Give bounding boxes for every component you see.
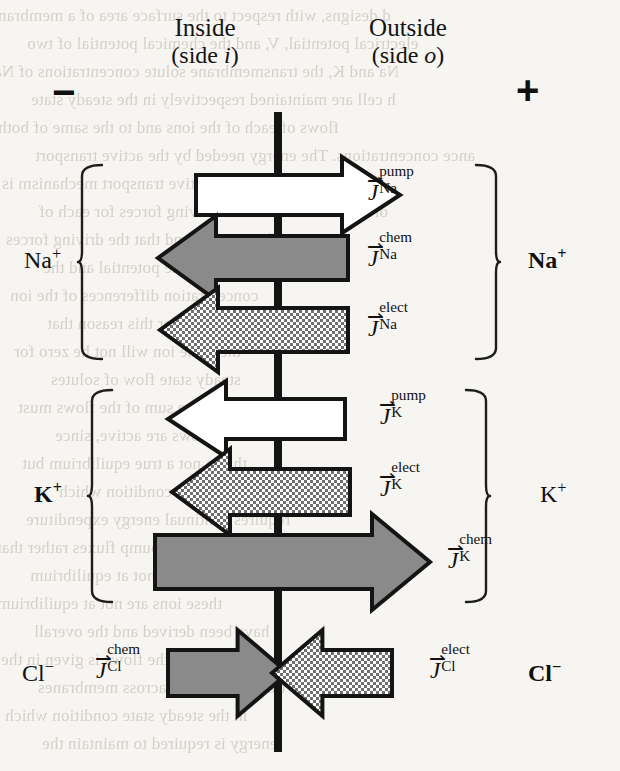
flux-subscript: Na [379,180,414,195]
ion-label-potassium-right: K+ [540,478,567,508]
figure-canvas: d designs, with respect to the surface a… [0,0,620,771]
outside-title: Outside [318,14,498,42]
flux-superscript: elect [441,641,470,656]
flux-symbol: ⇀J [448,549,459,572]
flux-symbol: ⇀J [380,477,391,500]
ion-label-sodium-left: Na+ [24,244,61,274]
brace-potassium-right [462,388,490,604]
flux-label-k-elect: ⇀JelectK [380,468,420,500]
flux-subscript: Cl [441,658,470,673]
bleed-line: flows of each of the ions and to the sam… [0,118,339,138]
flux-label-cl-elect: ⇀JelectCl [430,650,470,682]
flux-label-cl-chem: ⇀JchemCl [96,650,140,682]
brace-sodium-left [78,163,106,361]
flux-subscript: Na [379,316,408,331]
flux-symbol: ⇀J [96,659,107,682]
flux-label-k-pump: ⇀JpumpK [380,396,426,428]
outside-subtitle: (side o) [318,42,498,69]
inside-charge-sign: − [52,72,75,112]
flux-superscript: elect [391,459,420,474]
flux-subscript: K [391,404,426,419]
flux-arrow-k-chem [141,500,444,624]
brace-sodium-right [472,163,500,361]
flux-symbol: ⇀J [368,181,379,204]
inside-title: Inside [120,14,290,42]
ion-label-potassium-left: K+ [34,478,62,508]
flux-arrow-cl-elect [258,616,406,730]
flux-subscript: K [391,476,420,491]
inside-subtitle: (side i) [120,42,290,69]
flux-superscript: chem [379,229,412,244]
flux-symbol: ⇀J [368,247,379,270]
ion-label-sodium-right: Na+ [528,244,567,274]
flux-superscript: pump [391,387,426,402]
flux-subscript: Na [379,246,412,261]
outside-charge-sign: + [516,70,539,110]
ion-label-chloride-right: Cl− [528,657,561,687]
flux-label-na-elect: ⇀JelectNa [368,308,408,340]
flux-symbol: ⇀J [380,405,391,428]
flux-symbol: ⇀J [368,317,379,340]
ion-label-chloride-left: Cl− [22,657,54,687]
outside-header: Outside (side o) [318,14,498,69]
flux-superscript: elect [379,299,408,314]
bleed-line: energy is required to maintain the [42,734,277,754]
flux-label-na-pump: ⇀JpumpNa [368,172,414,204]
flux-subscript: Cl [107,658,140,673]
flux-symbol: ⇀J [430,659,441,682]
brace-potassium-left [88,388,116,604]
inside-header: Inside (side i) [120,14,290,69]
flux-superscript: chem [107,641,140,656]
flux-superscript: pump [379,163,414,178]
flux-label-na-chem: ⇀JchemNa [368,238,412,270]
bleed-line: h cell are maintained respectively in th… [31,90,396,110]
